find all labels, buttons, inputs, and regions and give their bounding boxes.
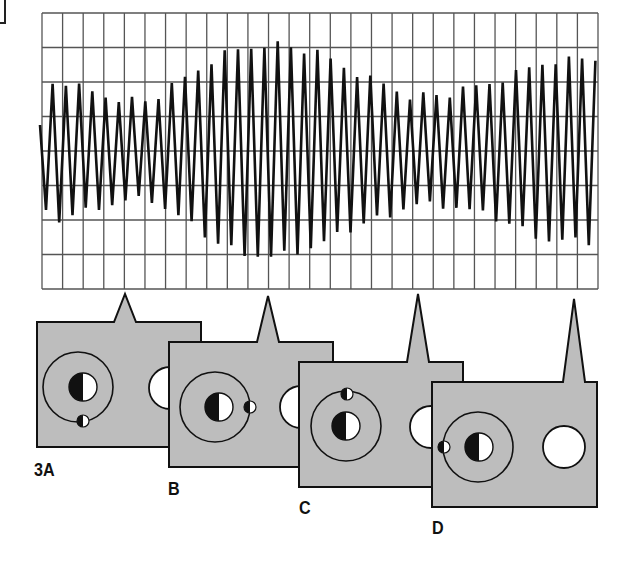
- orbit-panel-d: [432, 299, 597, 507]
- oscilloscope-trace: [40, 13, 598, 289]
- orbit-panels: [37, 294, 597, 507]
- hole-circle: [543, 426, 585, 468]
- panel-label-c: C: [299, 497, 311, 519]
- panel-label-d: D: [432, 517, 444, 539]
- waveform-line: [40, 41, 595, 256]
- figure-canvas: [0, 0, 628, 571]
- panel-label-b: B: [168, 478, 180, 500]
- panel-label-a: 3A: [34, 459, 55, 481]
